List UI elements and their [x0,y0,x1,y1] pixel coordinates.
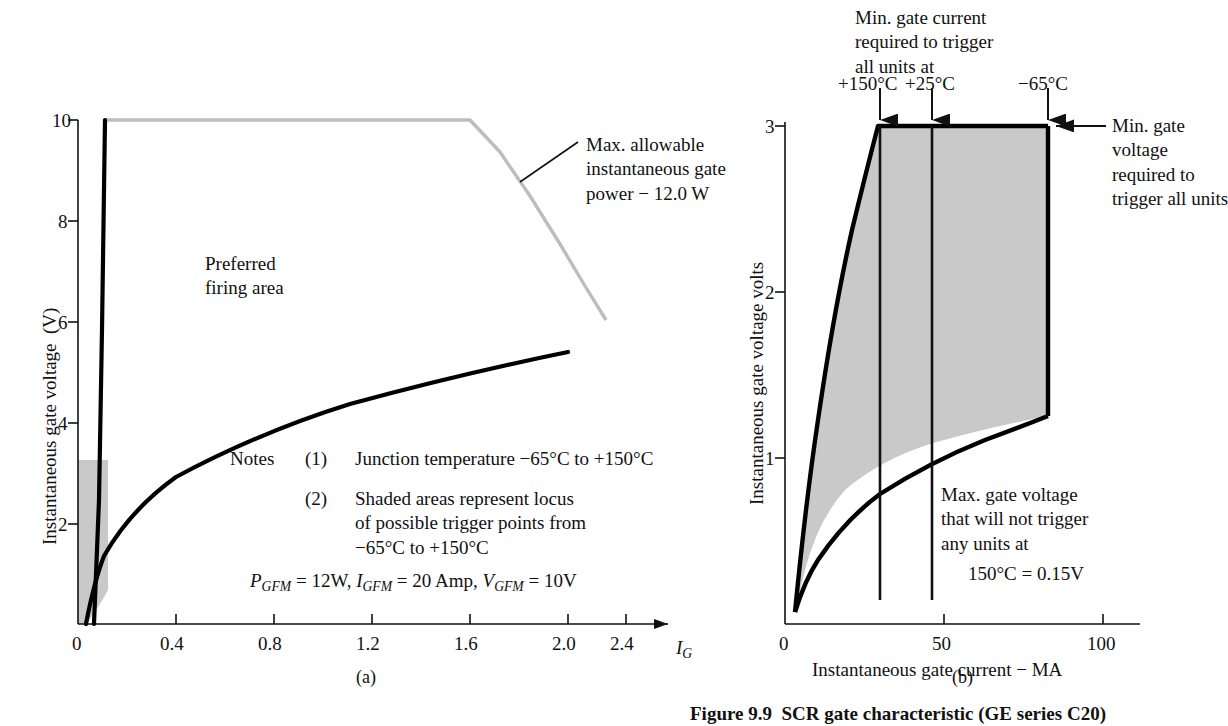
figure-caption: Figure 9.9 SCR gate characteristic (GE s… [690,702,1106,726]
panel-b-max-gate-voltage-label: Max. gate voltage that will not trigger … [941,483,1088,556]
panel-b-xtick-50: 50 [932,632,951,656]
panel-b-x-axis-title: Instantaneous gate current − MA [812,658,1062,682]
panel-b-min-gate-current-label: Min. gate current required to trigger al… [855,6,993,79]
panel-a-xtick-12: 1.2 [356,632,380,656]
panel-b-ytick-3: 3 [765,115,775,139]
panel-b-xtick-100: 100 [1087,632,1116,656]
panel-a-ratings-line: PGFM = 12W, IGFM = 20 Amp, VGFM = 10V [250,569,577,595]
panel-a-xtick-24: 2.4 [610,632,634,656]
panel-a-x-axis-title: IG [676,636,692,662]
panel-b-max-gate-voltage-value: 150°C = 0.15V [968,562,1084,586]
panel-b-y-axis-title: Instantaneous gate voltage volts [745,262,769,505]
panel-a-xtick-0: 0 [72,632,82,656]
panel-a-caption: (a) [356,666,376,689]
panel-a-note-2-number: (2) [305,487,327,511]
panel-b-min-gate-voltage-label: Min. gate voltage required to trigger al… [1112,114,1228,211]
panel-b-caption: (b) [952,666,973,689]
panel-a-notes-heading: Notes [230,447,274,471]
panel-a-xtick-04: 0.4 [160,632,184,656]
panel-a-max-power-leader [520,142,578,182]
panel-a-ytick-10: 10 [52,109,71,133]
panel-a-xtick-08: 0.8 [258,632,282,656]
panel-a-note-1-number: (1) [305,447,327,471]
panel-a-xtick-16: 1.6 [454,632,478,656]
panel-a-xtick-20: 2.0 [552,632,576,656]
panel-a-max-power-label: Max. allowable instantaneous gate power … [586,133,726,206]
panel-b-temp-label-150C: +150°C [838,72,898,96]
panel-a-max-power-curve [104,120,606,320]
panel-a-note-2-text: Shaded areas represent locus of possible… [355,487,586,560]
panel-a-ytick-8: 8 [58,210,68,234]
panel-a-y-axis-title: Instantaneous gate voltage (V) [38,308,62,545]
panel-b-temp-label-25C: +25°C [905,72,955,96]
panel-a-note-1-text: Junction temperature −65°C to +150°C [355,447,653,471]
panel-b-temp-label-minus65C: −65°C [1018,72,1068,96]
panel-a-preferred-firing-area-label: Preferred firing area [205,252,284,301]
panel-b-xtick-0: 0 [779,632,789,656]
